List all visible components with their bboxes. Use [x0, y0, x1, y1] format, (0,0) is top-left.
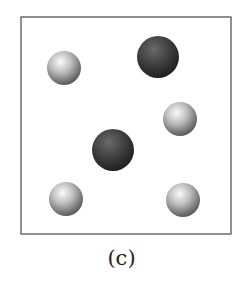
dark-sphere-icon — [137, 36, 179, 78]
light-sphere-icon — [47, 51, 81, 85]
light-sphere-icon — [163, 102, 197, 136]
particle-diagram — [0, 0, 243, 283]
light-sphere-icon — [49, 182, 83, 216]
figure-caption: (c) — [0, 246, 243, 270]
particles-group — [47, 36, 200, 217]
dark-sphere-icon — [92, 129, 134, 171]
light-sphere-icon — [166, 183, 200, 217]
